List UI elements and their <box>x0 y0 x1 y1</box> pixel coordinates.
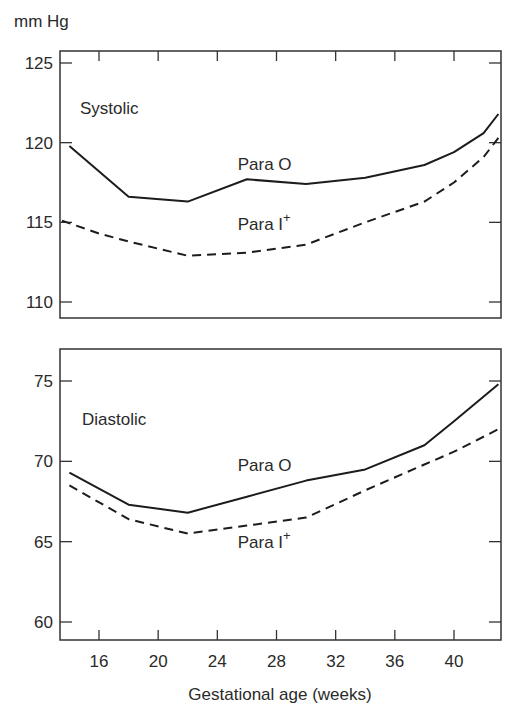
para-i-plus-line <box>69 429 498 533</box>
y-tick-label: 70 <box>34 452 53 471</box>
diastolic-panel-title: Diastolic <box>82 410 147 429</box>
para-o-label: Para O <box>238 155 292 174</box>
x-axis-tick-labels: 16202428323640 <box>90 652 464 671</box>
x-tick-label: 36 <box>385 652 404 671</box>
y-tick-label: 60 <box>34 613 53 632</box>
x-tick-label: 16 <box>90 652 109 671</box>
systolic-panel-title: Systolic <box>80 99 139 118</box>
systolic-series-labels: Para OPara I+ <box>238 155 292 235</box>
para-i-plus-label: Para I+ <box>238 528 291 552</box>
x-tick-label: 32 <box>326 652 345 671</box>
diastolic-series-labels: Para OPara I+ <box>238 456 292 552</box>
y-tick-label: 75 <box>34 372 53 391</box>
y-tick-label: 115 <box>26 213 53 232</box>
diastolic-plot-frame <box>60 349 501 640</box>
para-o-label: Para O <box>238 456 292 475</box>
y-tick-label: 65 <box>34 533 53 552</box>
diastolic-x-ticks <box>99 630 454 640</box>
systolic-x-ticks <box>99 51 454 61</box>
x-tick-label: 40 <box>445 652 464 671</box>
x-tick-label: 24 <box>208 652 227 671</box>
blood-pressure-chart: mm Hg 110115120125 Systolic Para OPara I… <box>0 0 519 719</box>
x-tick-label: 20 <box>149 652 168 671</box>
y-tick-label: 125 <box>25 54 53 73</box>
x-tick-label: 28 <box>267 652 286 671</box>
y-axis-unit-label: mm Hg <box>14 12 69 31</box>
y-tick-label: 110 <box>26 293 53 312</box>
diastolic-panel: 60657075 Diastolic Para OPara I+ <box>34 349 501 640</box>
systolic-series <box>62 114 498 256</box>
para-o-line <box>69 384 498 513</box>
systolic-panel: 110115120125 Systolic Para OPara I+ <box>25 51 501 318</box>
para-i-plus-label: Para I+ <box>238 210 291 234</box>
x-axis-title: Gestational age (weeks) <box>188 685 371 704</box>
systolic-plot-frame <box>60 51 501 318</box>
systolic-y-axis: 110115120125 <box>25 54 501 312</box>
y-tick-label: 120 <box>25 134 53 153</box>
